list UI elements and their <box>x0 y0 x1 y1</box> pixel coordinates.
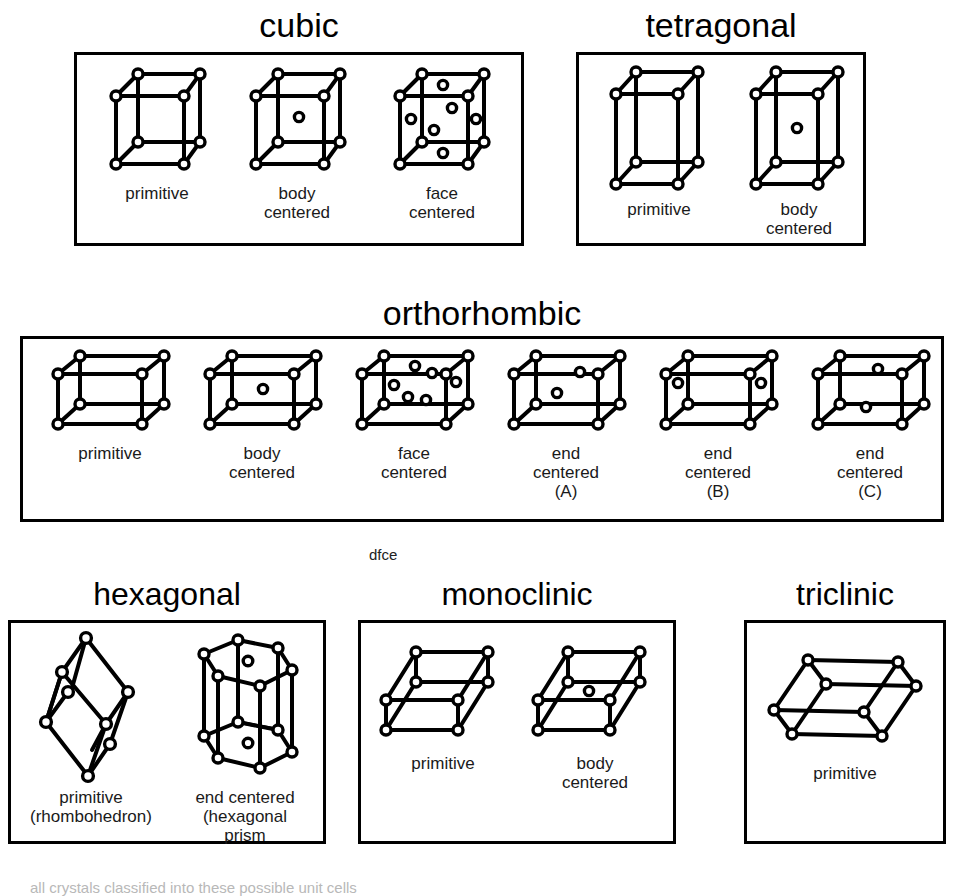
cell-caption-orthorhombic-end-centered-a: end centered (A) <box>528 444 604 502</box>
cell-monoclinic-primitive: primitive <box>368 638 518 828</box>
cell-triclinic-primitive: primitive <box>758 640 932 830</box>
lattice-drawing-orthorhombic-primitive <box>48 346 174 436</box>
cell-orthorhombic-end-centered-a: end centered (A) <box>490 346 642 516</box>
lattice-drawing-tetragonal-primitive <box>606 62 710 194</box>
cell-orthorhombic-end-centered-c: end centered (C) <box>794 346 946 516</box>
system-cubic: cubic <box>74 8 524 248</box>
cell-monoclinic-body-centered: body centered <box>520 638 670 828</box>
cell-orthorhombic-face-centered: face centered <box>338 346 490 516</box>
cell-caption-orthorhombic-end-centered-c: end centered (C) <box>832 444 908 502</box>
lattice-drawing-orthorhombic-end-centered-a <box>504 346 630 436</box>
cell-caption-orthorhombic-primitive: primitive <box>78 444 141 463</box>
lattice-drawing-cubic-primitive <box>106 64 210 176</box>
cell-hexagonal-end-centered: end centered (hexagonal prism <box>170 626 320 836</box>
system-triclinic: triclinic <box>744 578 946 844</box>
system-title-tetragonal: tetragonal <box>576 8 866 42</box>
lattice-drawing-monoclinic-body-centered <box>528 638 662 744</box>
cell-caption-hexagonal-end-centered: end centered (hexagonal prism <box>170 788 320 846</box>
cell-caption-orthorhombic-end-centered-b: end centered (B) <box>680 444 756 502</box>
lattice-drawing-rhombohedron <box>32 626 152 788</box>
cell-orthorhombic-body-centered: body centered <box>186 346 338 516</box>
cell-caption-orthorhombic-face-centered: face centered <box>381 444 447 482</box>
cell-cubic-face-centered: face centered <box>372 64 512 239</box>
system-title-monoclinic: monoclinic <box>358 578 676 610</box>
cell-orthorhombic-end-centered-b: end centered (B) <box>642 346 794 516</box>
cell-caption-tetragonal-body-centered: body centered <box>766 200 832 238</box>
lattice-drawing-cubic-body-centered <box>246 64 350 176</box>
cell-caption-triclinic-primitive: primitive <box>813 764 876 783</box>
lattice-drawing-cubic-face-centered <box>390 64 494 176</box>
cell-tetragonal-body-centered: body centered <box>734 62 864 242</box>
system-monoclinic: monoclinic <box>358 578 676 844</box>
system-title-hexagonal: hexagonal <box>8 578 326 610</box>
cell-orthorhombic-primitive: primitive <box>34 346 186 516</box>
cell-caption-hexagonal-primitive: primitive (rhombohedron) <box>16 788 166 826</box>
system-title-triclinic: triclinic <box>744 578 946 610</box>
cell-hexagonal-primitive: primitive (rhombohedron) <box>16 626 166 836</box>
lattice-drawing-orthorhombic-face-centered <box>352 346 478 436</box>
lattice-drawing-triclinic-primitive <box>764 640 928 754</box>
system-hexagonal: hexagonal <box>8 578 326 844</box>
cell-cubic-primitive: primitive <box>92 64 222 239</box>
system-title-cubic: cubic <box>74 8 524 42</box>
lattice-drawing-monoclinic-primitive <box>376 638 510 744</box>
system-orthorhombic: orthorhombic <box>20 296 944 522</box>
lattice-drawing-orthorhombic-end-centered-c <box>808 346 934 436</box>
cell-caption-cubic-face-centered: face centered <box>409 184 475 222</box>
cell-caption-monoclinic-primitive: primitive <box>411 754 474 773</box>
cell-caption-monoclinic-body-centered: body centered <box>562 754 628 792</box>
lattice-drawing-orthorhombic-end-centered-b <box>656 346 782 436</box>
lattice-drawing-tetragonal-body-centered <box>746 62 850 194</box>
cell-caption-tetragonal-primitive: primitive <box>627 200 690 219</box>
cell-tetragonal-primitive: primitive <box>594 62 724 242</box>
stray-note-dfce: dfce <box>369 546 397 563</box>
cell-caption-orthorhombic-body-centered: body centered <box>229 444 295 482</box>
cell-cubic-body-centered: body centered <box>232 64 362 239</box>
system-tetragonal: tetragonal <box>576 8 866 248</box>
cell-caption-cubic-primitive: primitive <box>125 184 188 203</box>
lattice-drawing-orthorhombic-body-centered <box>200 346 326 436</box>
lattice-drawing-hexagonal-prism <box>190 630 306 782</box>
system-title-orthorhombic: orthorhombic <box>20 296 944 330</box>
cell-caption-cubic-body-centered: body centered <box>264 184 330 222</box>
footer-clipped-text: all crystals classified into these possi… <box>30 879 357 896</box>
